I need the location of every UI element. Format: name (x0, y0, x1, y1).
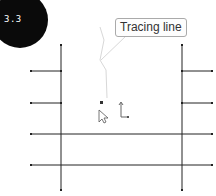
axis-icon (119, 102, 129, 118)
tracing-line (100, 27, 126, 98)
point-marker (100, 101, 103, 104)
tooltip-tracing-line: Tracing line (115, 18, 187, 37)
arrow-cursor-icon (99, 110, 108, 123)
step-badge-label: 3.3 (4, 14, 22, 24)
